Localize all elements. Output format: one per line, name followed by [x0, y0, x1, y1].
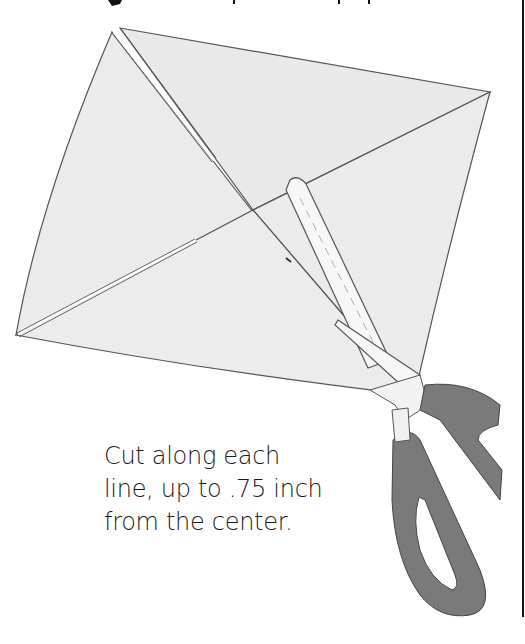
- caption-line-2: line, up to .75 inch: [104, 473, 344, 506]
- illustration: Cut along each line, up to .75 inch from…: [0, 0, 525, 644]
- right-border-rule: [522, 0, 524, 617]
- paper-square: [16, 28, 490, 395]
- caption-line-3: from the center.: [104, 506, 344, 539]
- cropped-title-fragment: [108, 0, 370, 6]
- caption-line-1: Cut along each: [104, 440, 344, 473]
- paper-and-scissors-drawing: [0, 0, 525, 644]
- instruction-caption: Cut along each line, up to .75 inch from…: [104, 440, 344, 539]
